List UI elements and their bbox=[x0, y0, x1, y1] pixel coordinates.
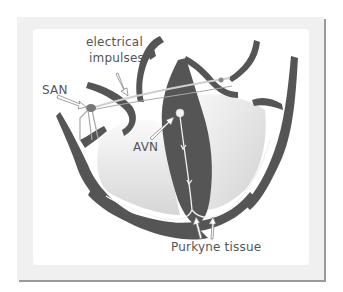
impulse-junction bbox=[219, 78, 224, 83]
electrical-impulses-arrow bbox=[116, 73, 128, 96]
heart-vessel-upper-right bbox=[228, 40, 260, 82]
san-arrow bbox=[57, 95, 86, 109]
san-node bbox=[86, 104, 96, 112]
label-san: SAN bbox=[42, 83, 68, 97]
label-avn: AVN bbox=[133, 140, 158, 154]
label-purkyne-tissue: Purkyne tissue bbox=[171, 240, 261, 254]
avn-node bbox=[176, 109, 184, 117]
label-electrical: electrical bbox=[86, 35, 143, 49]
impulse-line-san-left bbox=[80, 110, 88, 140]
label-impulses: impulses bbox=[89, 51, 144, 65]
